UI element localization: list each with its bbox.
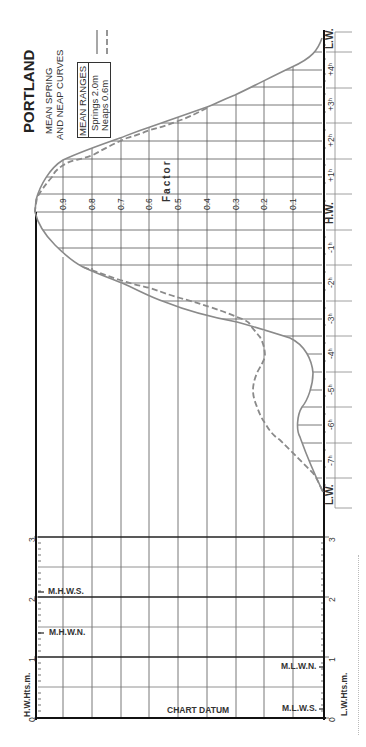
- factor-tick-0.6: 0.6: [144, 198, 154, 210]
- hw-height-tick-1: 1: [27, 657, 37, 662]
- time-label-minus6: -6ʰ: [326, 419, 336, 430]
- legend-neaps-label: Neaps 0.6m: [99, 80, 110, 131]
- time-label-minus3: -3ʰ: [326, 313, 336, 324]
- level-mark-ticks: [38, 592, 325, 709]
- chart-datum-label: CHART DATUM: [167, 705, 229, 715]
- chart-title: PORTLAND: [20, 50, 37, 133]
- time-label-plus1: +1ʰ: [326, 169, 336, 182]
- faint-margin-note: [358, 555, 361, 735]
- factor-tick-0.4: 0.4: [202, 198, 212, 210]
- neaps-curve: [35, 108, 323, 492]
- legend-swatches: [92, 28, 112, 58]
- factor-tick-0.1: 0.1: [288, 198, 298, 210]
- lw-height-tick-0: 0: [327, 717, 337, 722]
- factor-axis-label: Factor: [161, 159, 172, 202]
- time-label-minus5: -5ʰ: [326, 384, 336, 395]
- mhwn-label: M.H.W.N.: [49, 627, 85, 637]
- hw-height-tick-0: 0: [27, 717, 37, 722]
- factor-tick-0.7: 0.7: [116, 198, 126, 210]
- time-label-lw-top: L.W.: [324, 28, 335, 49]
- lw-heights-axis-label: L.W.Hts.m.: [339, 673, 349, 716]
- lw-height-tick-1: 1: [327, 657, 337, 662]
- subtitle-line-2: AND NEAP CURVES: [54, 50, 65, 140]
- heights-grid-verticals: [63, 257, 293, 718]
- time-label-minus1: -1ʰ: [326, 242, 336, 253]
- factor-tick-0.3: 0.3: [231, 198, 241, 210]
- lw-height-tick-2: 2: [327, 597, 337, 602]
- legend-header: MEAN RANGES: [77, 66, 88, 136]
- factor-tick-0.8: 0.8: [87, 198, 97, 210]
- mlws-label: M.L.W.S.: [282, 703, 317, 713]
- time-label-plus4: +4ʰ: [326, 63, 336, 76]
- time-label-minus7: -7ʰ: [326, 455, 336, 466]
- hw-heights-axis-label: H.W.Hts.m.: [22, 673, 32, 717]
- time-label-lw-bottom: L.W.: [324, 484, 335, 505]
- subtitle-line-1: MEAN SPRING: [43, 67, 54, 134]
- time-label-minus4: -4ʰ: [326, 348, 336, 359]
- lw-height-tick-3: 3: [327, 537, 337, 542]
- time-label-plus2: +2ʰ: [326, 134, 336, 147]
- factor-tick-0.5: 0.5: [173, 198, 183, 210]
- factor-tick-0.9: 0.9: [58, 198, 68, 210]
- time-label-plus3: +3ʰ: [326, 98, 336, 111]
- curve-grid: [30, 30, 325, 500]
- factor-tick-0.2: 0.2: [259, 198, 269, 210]
- hw-height-tick-3: 3: [27, 537, 37, 542]
- mhws-label: M.H.W.S.: [48, 586, 84, 596]
- mlwn-label: M.L.W.N.: [281, 661, 316, 671]
- hw-height-tick-2: 2: [27, 597, 37, 602]
- time-label-hw: H.W.: [324, 202, 335, 224]
- time-label-minus2: -2ʰ: [326, 277, 336, 288]
